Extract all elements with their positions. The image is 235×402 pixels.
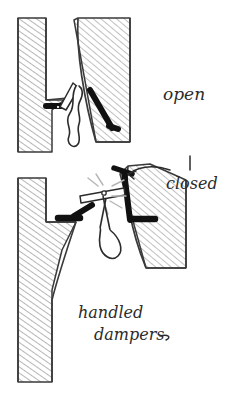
open-damper-pivot (56, 105, 59, 108)
caption-line-2: dampers (94, 325, 165, 344)
label-open: open (163, 84, 205, 104)
caption-line-1: handled (78, 303, 143, 322)
closed-damper-pivot (102, 191, 106, 195)
handled-dampers-sketch: open (0, 0, 235, 402)
label-closed: closed (166, 174, 218, 193)
